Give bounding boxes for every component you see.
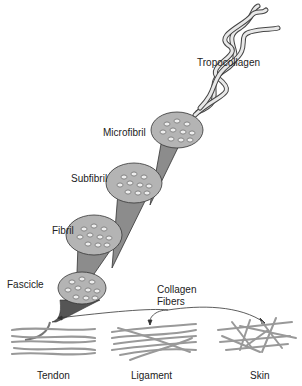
label-microfibril: Microfibril (103, 127, 146, 138)
label-tendon: Tendon (37, 370, 70, 381)
ligament-fibers (112, 324, 196, 360)
label-collagen-fibers-2: Fibers (157, 296, 185, 307)
label-fibril: Fibril (52, 225, 74, 236)
label-collagen-fibers-1: Collagen (157, 284, 196, 295)
label-skin: Skin (250, 370, 269, 381)
tendon-fibers (12, 329, 95, 355)
subfibril-cone (106, 163, 162, 268)
skin-fibers (218, 318, 296, 352)
label-ligament: Ligament (131, 370, 172, 381)
label-fascicle: Fascicle (7, 279, 44, 290)
label-subfibril: Subfibril (71, 173, 107, 184)
label-tropocollagen: Tropocollagen (197, 57, 260, 68)
collagen-fibers-arrows (58, 307, 265, 325)
